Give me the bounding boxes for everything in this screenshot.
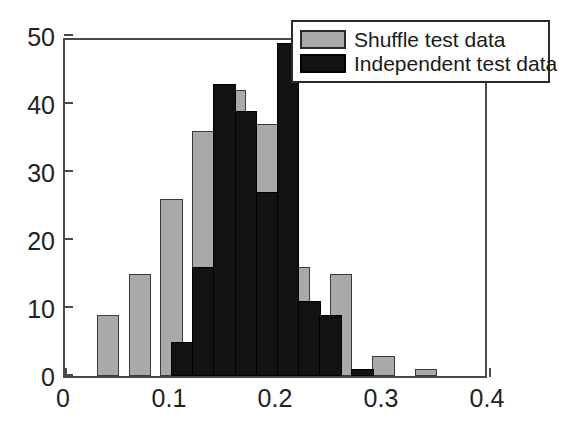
legend-entry-independent: Independent test data xyxy=(300,51,541,75)
histogram-bar xyxy=(235,111,257,376)
y-axis-tick xyxy=(64,238,73,240)
chart-legend: Shuffle test data Independent test data xyxy=(291,20,550,83)
x-axis-tick-label: 0.3 xyxy=(346,386,416,411)
y-axis-tick xyxy=(64,170,73,172)
histogram-bar xyxy=(192,267,214,376)
plot-area xyxy=(63,38,487,378)
histogram-bar xyxy=(171,342,193,376)
histogram-bar xyxy=(319,315,341,376)
histogram-bar xyxy=(298,301,320,376)
x-axis-tick-label: 0 xyxy=(28,386,98,411)
histogram-bar xyxy=(277,43,299,376)
x-axis-tick-label: 0.1 xyxy=(134,386,204,411)
histogram-figure: 01020304050 00.10.20.30.4 Shuffle test d… xyxy=(0,0,576,428)
y-axis-tick-label: 30 xyxy=(7,161,55,186)
histogram-bar xyxy=(213,84,235,376)
histogram-bar xyxy=(415,369,437,376)
legend-entry-shuffle: Shuffle test data xyxy=(300,27,541,51)
y-axis-tick-label: 40 xyxy=(7,93,55,118)
y-axis-tick-label: 20 xyxy=(7,229,55,254)
legend-label-independent: Independent test data xyxy=(354,53,557,74)
x-axis-tick-label: 0.4 xyxy=(452,386,522,411)
legend-label-shuffle: Shuffle test data xyxy=(354,29,505,50)
x-axis-tick-label: 0.2 xyxy=(240,386,310,411)
histogram-bar xyxy=(256,192,278,376)
bars-layer xyxy=(65,40,485,376)
black-swatch-icon xyxy=(300,54,346,73)
histogram-bar xyxy=(129,274,151,376)
histogram-bar xyxy=(97,315,119,376)
gray-swatch-icon xyxy=(300,30,346,49)
histogram-bar xyxy=(372,356,394,376)
y-axis-tick xyxy=(64,102,73,104)
x-axis-tick xyxy=(489,368,491,377)
y-axis-tick-label: 50 xyxy=(7,25,55,50)
y-axis-tick-label: 10 xyxy=(7,297,55,322)
y-axis-tick xyxy=(64,34,73,36)
histogram-bar xyxy=(351,369,373,376)
y-axis-tick xyxy=(64,306,73,308)
x-axis-tick xyxy=(65,368,67,377)
